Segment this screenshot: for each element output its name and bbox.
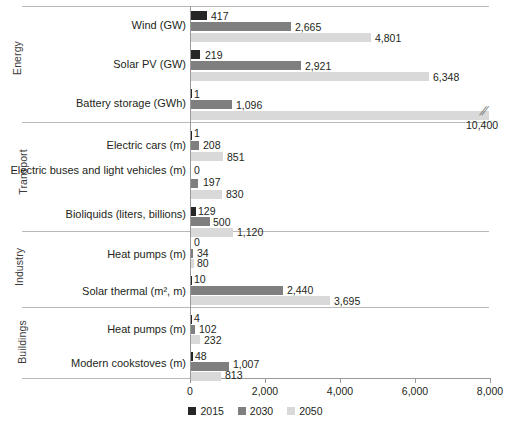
- bar-value-solar-pv-2015: 219: [205, 49, 223, 61]
- bar-battery-storage-2050: [191, 111, 489, 120]
- legend-item-2030: 2030: [238, 405, 273, 417]
- category-label-battery-storage: Battery storage (GWh): [1, 97, 186, 110]
- bar-value-industry-heat-pumps-2050: 80: [197, 257, 209, 269]
- section-divider-industry: [22, 307, 489, 308]
- category-label-solar-thermal: Solar thermal (m², m): [1, 285, 186, 298]
- legend-label-2050: 2050: [299, 405, 322, 417]
- x-tick-label-0: 0: [187, 385, 193, 397]
- bar-wind-2030: [191, 22, 291, 31]
- section-divider-energy: [22, 122, 489, 123]
- category-label-modern-cookstoves: Modern cookstoves (m): [1, 357, 186, 370]
- bar-value-bioliquids-2030: 500: [213, 216, 231, 228]
- bar-solar-pv-2030: [191, 61, 301, 70]
- legend-label-2015: 2015: [200, 405, 223, 417]
- bar-wind-2015: [191, 11, 207, 20]
- bar-value-electric-buses-2030: 197: [203, 176, 221, 188]
- bar-value-battery-storage-2030: 1,096: [236, 99, 262, 111]
- bar-value-wind-2015: 417: [211, 10, 229, 22]
- section-divider-top: [22, 6, 489, 7]
- category-label-wind: Wind (GW): [1, 19, 186, 32]
- bar-solar-pv-2050: [191, 72, 429, 81]
- bar-buildings-heat-pumps-2050: [191, 335, 200, 344]
- bar-value-modern-cookstoves-2050: 813: [225, 369, 243, 381]
- x-tick-label-6000: 6,000: [402, 385, 428, 397]
- bar-solar-pv-2015: [191, 50, 200, 59]
- legend-swatch-2015: [188, 407, 196, 415]
- x-tick-4000: [340, 378, 341, 383]
- bar-value-solar-pv-2030: 2,921: [305, 60, 331, 72]
- legend-item-2015: 2015: [188, 405, 223, 417]
- bar-value-solar-thermal-2015: 10: [194, 273, 206, 285]
- legend-item-2050: 2050: [287, 405, 322, 417]
- bar-solar-thermal-2050: [191, 296, 330, 305]
- bar-value-buildings-heat-pumps-2050: 232: [204, 334, 222, 346]
- bar-bioliquids-2030: [191, 217, 210, 226]
- bar-value-wind-2030: 2,665: [295, 21, 321, 33]
- bar-industry-heat-pumps-2050: [191, 259, 194, 268]
- group-label-industry: Industry: [0, 261, 14, 273]
- bar-value-electric-cars-2015: 1: [194, 127, 200, 139]
- bar-electric-cars-2030: [191, 141, 199, 150]
- x-tick-label-8000: 8,000: [477, 385, 503, 397]
- category-label-industry-heat-pumps: Heat pumps (m): [1, 248, 186, 261]
- category-label-bioliquids: Bioliquids (liters, billions): [1, 208, 186, 221]
- group-label-buildings: Buildings: [0, 336, 14, 348]
- bar-value-battery-storage-2050: 10,400: [466, 119, 498, 131]
- bar-electric-buses-2030: [191, 179, 198, 188]
- x-tick-8000: [490, 378, 491, 383]
- bar-industry-heat-pumps-2030: [191, 249, 193, 258]
- bar-value-electric-buses-2050: 830: [226, 188, 244, 200]
- bar-buildings-heat-pumps-2030: [191, 325, 195, 334]
- bar-solar-thermal-2015: [191, 276, 192, 285]
- bar-electric-cars-2015: [191, 131, 192, 140]
- bar-value-solar-thermal-2050: 3,695: [334, 295, 360, 307]
- bar-battery-storage-2030: [191, 100, 232, 109]
- bar-value-battery-storage-2015: 1: [194, 88, 200, 100]
- x-tick-6000: [415, 378, 416, 383]
- chart-legend: 2015 2030 2050: [0, 405, 511, 417]
- bar-bioliquids-2015: [191, 207, 196, 216]
- bar-value-wind-2050: 4,801: [375, 32, 401, 44]
- bar-modern-cookstoves-2050: [191, 372, 221, 381]
- bar-electric-cars-2050: [191, 152, 223, 161]
- legend-label-2030: 2030: [250, 405, 273, 417]
- bar-battery-storage-2015: [191, 89, 192, 98]
- category-label-buildings-heat-pumps: Heat pumps (m): [1, 323, 186, 336]
- bar-value-solar-pv-2050: 6,348: [433, 71, 459, 83]
- legend-swatch-2050: [287, 407, 295, 415]
- bar-value-electric-buses-2015: 0: [194, 164, 200, 176]
- bar-modern-cookstoves-2030: [191, 362, 229, 371]
- bar-value-electric-cars-2030: 208: [203, 139, 221, 151]
- bar-electric-buses-2050: [191, 190, 222, 199]
- category-label-solar-pv: Solar PV (GW): [1, 58, 186, 71]
- category-label-electric-cars: Electric cars (m): [1, 139, 186, 152]
- bar-value-electric-cars-2050: 851: [227, 151, 245, 163]
- category-label-electric-buses: Electric buses and light vehicles (m): [1, 164, 186, 177]
- x-tick-2000: [265, 378, 266, 383]
- x-tick-label-2000: 2,000: [252, 385, 278, 397]
- bar-buildings-heat-pumps-2015: [191, 315, 192, 324]
- bar-value-solar-thermal-2030: 2,440: [287, 284, 313, 296]
- bar-solar-thermal-2030: [191, 286, 283, 295]
- bar-wind-2050: [191, 33, 371, 42]
- bar-value-bioliquids-2050: 1,120: [237, 226, 263, 238]
- x-tick-label-4000: 4,000: [327, 385, 353, 397]
- bar-modern-cookstoves-2015: [191, 352, 193, 361]
- legend-swatch-2030: [238, 407, 246, 415]
- bar-chart: Energy Transport Industry Buildings 0 2,…: [0, 0, 511, 430]
- bar-value-modern-cookstoves-2015: 48: [195, 350, 207, 362]
